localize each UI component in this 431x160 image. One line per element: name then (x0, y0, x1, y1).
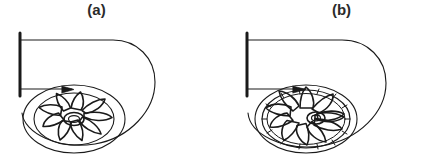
blade (82, 99, 105, 114)
figure-sheet: (a) (0, 0, 431, 160)
volute-casing-outer (247, 40, 386, 147)
figure-panel-a: (a) (0, 0, 215, 160)
blade (312, 94, 333, 113)
blade (71, 92, 83, 110)
blade (296, 124, 308, 146)
cutwater-tongue (62, 86, 74, 93)
panel-a-drawing (0, 0, 215, 160)
blade (56, 94, 70, 112)
blade (58, 121, 71, 141)
blade-tip-mark (317, 144, 318, 149)
panel-b-drawing (216, 0, 431, 160)
figure-panel-b: (b) (216, 0, 431, 160)
